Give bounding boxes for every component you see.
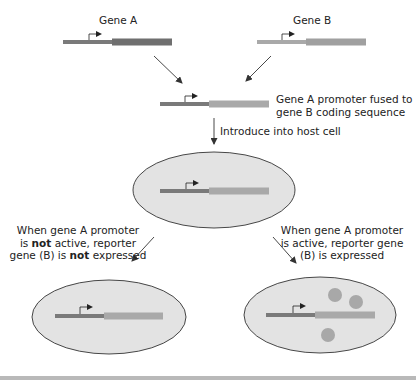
cell-not-expressed	[32, 280, 186, 354]
fusion-construct	[160, 96, 269, 108]
reporter-gene-diagram	[0, 0, 416, 380]
caption-not-active: When gene A promoter is not active, repo…	[8, 224, 148, 262]
caption-active-line1: When gene A promoter	[272, 224, 412, 237]
gene-b-construct	[257, 34, 366, 46]
cell-expressed	[244, 277, 396, 353]
gene-a-coding-sequence	[112, 39, 172, 46]
caption-not-active-line2: is not active, reporter	[8, 237, 148, 250]
caption-active: When gene A promoter is active, reporter…	[272, 224, 412, 262]
promoter-arrow-icon	[185, 96, 193, 102]
caption-not-active-line3: gene (B) is not expressed	[8, 249, 148, 262]
caption-not-active-line1: When gene A promoter	[8, 224, 148, 237]
host-cell	[133, 152, 295, 228]
gene-b-coding-sequence	[306, 39, 366, 46]
fusion-promoter	[160, 102, 210, 106]
gene-b-label: Gene B	[293, 14, 331, 27]
arrow-gene-b-to-fusion	[246, 56, 271, 81]
reporter-protein	[349, 295, 363, 309]
gene-a-label: Gene A	[99, 14, 137, 27]
fusion-caption-line2: gene B coding sequence	[276, 106, 412, 119]
reporter-protein	[321, 328, 335, 342]
gene-a-promoter	[63, 40, 113, 44]
fusion-caption: Gene A promoter fused to gene B coding s…	[276, 93, 412, 118]
introduce-label: Introduce into host cell	[220, 125, 341, 138]
reporter-protein	[328, 288, 342, 302]
fusion-coding-sequence	[209, 101, 269, 108]
arrow-gene-a-to-fusion	[154, 56, 182, 83]
fusion-caption-line1: Gene A promoter fused to	[276, 93, 412, 106]
gene-b-promoter	[257, 40, 307, 44]
caption-active-line2: is active, reporter gene	[272, 237, 412, 250]
promoter-arrow-icon	[89, 34, 97, 40]
promoter-arrow-icon	[282, 34, 290, 40]
caption-active-line3: (B) is expressed	[272, 249, 412, 262]
bottom-divider	[0, 376, 416, 380]
gene-a-construct	[63, 34, 172, 46]
